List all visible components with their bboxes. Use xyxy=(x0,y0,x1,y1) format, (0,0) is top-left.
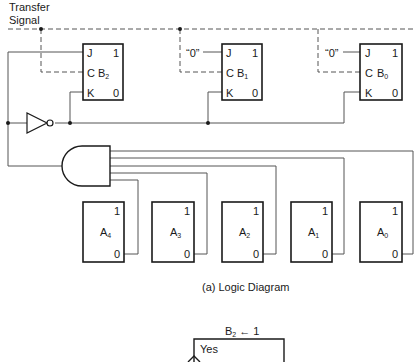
logic-diagram xyxy=(0,0,415,362)
b2-j-pin: J xyxy=(87,47,93,59)
a4-one: 1 xyxy=(114,205,120,217)
b2-c-pin: C xyxy=(87,67,95,79)
flowchart-yes-label: Yes xyxy=(200,343,218,355)
b0-j-input-value: “0” xyxy=(325,47,338,59)
b2-k-pin: K xyxy=(87,87,94,99)
a1-zero: 0 xyxy=(322,248,328,260)
and-gate xyxy=(62,146,110,186)
b0-one-pin: 1 xyxy=(392,47,398,59)
inverter-gate xyxy=(27,113,53,133)
a2-name: A2 xyxy=(239,226,250,242)
b1-zero-pin: 0 xyxy=(252,87,258,99)
a1-name: A1 xyxy=(308,226,319,242)
b1-k-pin: K xyxy=(226,87,233,99)
a4-zero: 0 xyxy=(114,248,120,260)
a3-one: 1 xyxy=(184,205,190,217)
b0-c-pin: C xyxy=(365,67,373,79)
a4-name: A4 xyxy=(100,226,111,242)
b0-zero-pin: 0 xyxy=(392,87,398,99)
a3-zero: 0 xyxy=(184,248,190,260)
transfer-signal-bus xyxy=(8,29,415,72)
b0-name: B0 xyxy=(377,67,388,83)
a1-one: 1 xyxy=(322,205,328,217)
b1-j-pin: J xyxy=(226,47,232,59)
b1-c-pin: C xyxy=(226,67,234,79)
b2-j-wire xyxy=(8,52,83,123)
a0-zero: 0 xyxy=(392,248,398,260)
b2-name: B2 xyxy=(98,67,109,83)
transfer-signal-label: Transfer Signal xyxy=(9,1,50,26)
a2-zero: 0 xyxy=(253,248,259,260)
a0-name: A0 xyxy=(377,226,388,242)
flowchart-action-label: B2 ← 1 xyxy=(225,325,259,341)
b0-k-pin: K xyxy=(365,87,372,99)
figure-caption: (a) Logic Diagram xyxy=(202,281,289,293)
b1-j-input-value: “0” xyxy=(186,47,199,59)
a2-one: 1 xyxy=(253,205,259,217)
b1-name: B1 xyxy=(237,67,248,83)
a3-name: A3 xyxy=(170,226,181,242)
b2-one-pin: 1 xyxy=(113,47,119,59)
b2-zero-pin: 0 xyxy=(113,87,119,99)
b0-j-pin: J xyxy=(365,47,371,59)
a0-one: 1 xyxy=(392,205,398,217)
b1-one-pin: 1 xyxy=(252,47,258,59)
